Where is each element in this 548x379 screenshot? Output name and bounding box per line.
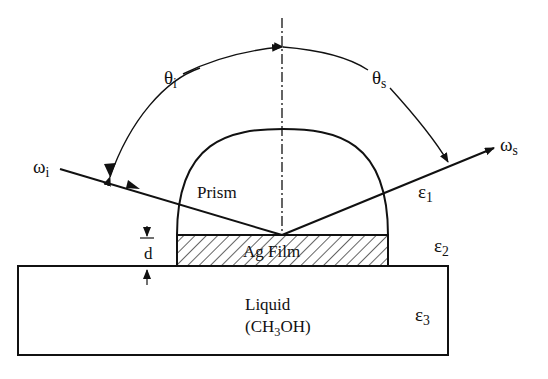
ag-film-label: Ag Film [243, 243, 300, 260]
liquid-label: Liquid [245, 296, 290, 313]
epsilon-2-label: ε2 [434, 236, 449, 259]
diagram: θi θs ωi ωs ε1 ε2 ε3 Prism Ag Film d Liq… [0, 0, 548, 379]
theta-s-label: θs [372, 68, 386, 91]
thickness-label: d [144, 245, 153, 262]
epsilon-3-label: ε3 [415, 305, 430, 328]
omega-i-label: ωi [33, 157, 49, 180]
incident-ray [60, 169, 282, 235]
liquid-box [18, 266, 448, 355]
theta-s-arc [283, 47, 368, 70]
omega-s-label: ωs [500, 135, 518, 158]
prism-label: Prism [197, 184, 237, 201]
theta-i-label: θi [164, 68, 177, 91]
incident-ray-arrowhead [126, 180, 140, 189]
theta-i-arc [110, 68, 200, 177]
liquid-formula-label: (CH3OH) [245, 318, 311, 338]
epsilon-1-label: ε1 [418, 182, 433, 205]
